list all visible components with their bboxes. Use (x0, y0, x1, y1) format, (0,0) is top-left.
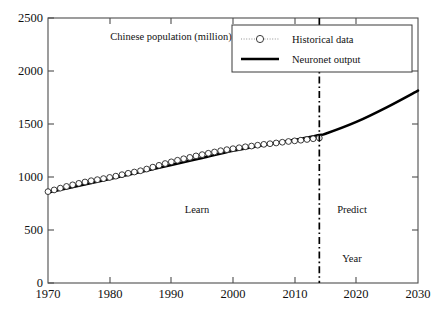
historical-data-point (88, 178, 94, 184)
historical-data-point (193, 153, 199, 159)
historical-data-point (64, 184, 70, 190)
historical-data-point (304, 137, 310, 143)
historical-data-point (224, 147, 230, 153)
historical-data-point (101, 176, 107, 182)
historical-data-point (144, 166, 150, 172)
historical-data-point (45, 189, 51, 195)
x-tick-label-2030: 2030 (406, 287, 431, 301)
historical-data-point (310, 136, 316, 142)
historical-data-point (249, 143, 255, 149)
y-axis-ticks (48, 18, 54, 283)
y-tick-label-2500: 2500 (18, 11, 43, 25)
historical-data-point (125, 170, 131, 176)
historical-data-point (119, 172, 125, 178)
historical-data-point (187, 154, 193, 160)
historical-data-point (156, 162, 162, 168)
y-tick-label-1500: 1500 (18, 117, 43, 131)
data-series-layer (45, 91, 418, 195)
chart-title: Chinese population (million) (110, 31, 232, 43)
chart-legend: Historical data Neuronet output (232, 25, 412, 72)
x-tick-label-2020: 2020 (344, 287, 369, 301)
historical-data-point (230, 146, 236, 152)
historical-data-point (279, 139, 285, 145)
historical-data-point (113, 173, 119, 179)
legend-label-historical: Historical data (292, 34, 354, 45)
historical-data-point (82, 179, 88, 185)
historical-data-point (255, 142, 261, 148)
historical-data-point (273, 140, 279, 146)
historical-data-point (242, 144, 248, 150)
legend-label-neuronet: Neuronet output (292, 54, 361, 65)
learn-region-label: Learn (185, 204, 210, 215)
historical-data-point (267, 141, 273, 147)
historical-data-point (218, 148, 224, 154)
historical-data-point (175, 157, 181, 163)
historical-data-point (212, 149, 218, 155)
historical-data-point (51, 187, 57, 193)
x-tick-label-2000: 2000 (221, 287, 246, 301)
historical-data-point (168, 159, 174, 165)
x-tick-label-2010: 2010 (283, 287, 308, 301)
historical-data-point (57, 185, 63, 191)
historical-data-point (76, 180, 82, 186)
historical-data-point (292, 138, 298, 144)
historical-data-point (181, 156, 187, 162)
y-tick-label-500: 500 (24, 223, 43, 237)
historical-data-point (261, 141, 267, 147)
population-forecast-chart: 0 500 1000 1500 2000 2500 1970 1980 1990… (0, 0, 439, 317)
y-tick-label-2000: 2000 (18, 64, 43, 78)
predict-region-label: Predict (337, 204, 367, 215)
historical-data-point (199, 152, 205, 158)
historical-data-point (205, 150, 211, 156)
y-tick-label-1000: 1000 (18, 170, 43, 184)
historical-data-point (286, 139, 292, 145)
x-tick-label-1970: 1970 (36, 287, 61, 301)
historical-data-point (162, 161, 168, 167)
historical-data-point (236, 145, 242, 151)
historical-data-point (150, 164, 156, 170)
historical-data-point (70, 182, 76, 188)
x-tick-label-1990: 1990 (159, 287, 184, 301)
chart-svg: 0 500 1000 1500 2000 2500 1970 1980 1990… (0, 0, 439, 317)
x-tick-label-1980: 1980 (98, 287, 123, 301)
y-axis-ticks-right (412, 71, 418, 230)
historical-data-point (131, 169, 137, 175)
historical-data-point (298, 137, 304, 143)
x-axis-label: Year (342, 253, 362, 264)
historical-data-point (138, 168, 144, 174)
historical-data-point (107, 175, 113, 181)
historical-data-point (94, 177, 100, 183)
legend-historical-marker-icon (256, 35, 263, 42)
